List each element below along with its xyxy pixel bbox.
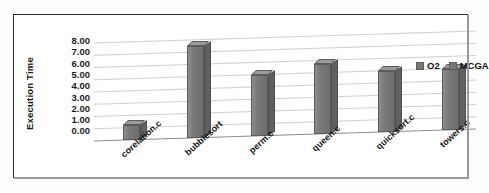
chart-frame: Execution Time 8.007.006.005.004.003.002… [13,14,468,178]
bar [314,64,331,134]
bar-face [187,46,204,138]
y-axis-tick-label: 2.00 [72,104,91,114]
y-axis-tick-label: 6.00 [72,59,91,69]
x-axis-category-labels: corelation.cbubblesortperm.cqueen.cquick… [94,141,476,187]
bar [251,75,268,136]
y-axis-title: Execution Time [20,43,38,143]
bar-face [251,75,268,136]
legend-swatch-icon [416,62,424,70]
y-axis-tick-labels: 8.007.006.005.004.003.002.001.000.00 [50,39,90,141]
bar-face [442,69,459,130]
y-axis-tick-label: 8.00 [72,36,91,46]
y-axis-tick-label: 1.00 [72,115,91,125]
legend-label: O2 [427,60,440,71]
legend-swatch-icon [449,62,457,70]
bar [378,71,395,132]
legend-item: O2 [416,60,440,71]
y-axis-title-text: Execution Time [24,57,35,130]
y-axis-tick-label: 3.00 [72,93,91,103]
chart-legend: O2MCGA [416,60,489,71]
bar [187,46,204,138]
bar-side [268,70,275,136]
y-axis-tick-label: 5.00 [72,70,91,80]
y-axis-tick-label: 7.00 [72,47,91,57]
bar-face [378,71,395,132]
legend-label: MCGA [460,60,489,71]
bar [442,69,459,130]
bar-face [314,64,331,134]
y-axis-tick-label: 4.00 [72,81,91,91]
legend-item: MCGA [449,60,489,71]
y-axis-tick-label: 0.00 [72,126,91,136]
bar-side [204,41,211,138]
